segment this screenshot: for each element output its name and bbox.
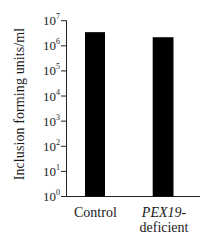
y-tick-label: 107 xyxy=(43,12,60,28)
x-category-label-control: Control xyxy=(74,205,116,220)
y-tick-label: 104 xyxy=(43,88,60,104)
y-tick-label: 106 xyxy=(43,37,60,53)
gene-name-italic: PEX19 xyxy=(142,205,182,220)
y-axis-label: Inclusion forming units/ml xyxy=(12,28,28,181)
category-label-line1: PEX19- xyxy=(136,205,192,220)
y-tick-label: 101 xyxy=(43,163,60,179)
y-tick-label: 102 xyxy=(43,138,60,154)
y-tick-label: 100 xyxy=(43,188,60,204)
hyphen: - xyxy=(181,205,186,220)
bar-pex19-deficient xyxy=(153,37,174,196)
y-ticks: 100101102103104105106107 xyxy=(43,12,67,204)
chart: 100101102103104105106107 xyxy=(0,0,204,240)
bars xyxy=(85,32,174,196)
x-category-label-pex19-deficient: PEX19- deficient xyxy=(136,205,192,235)
bar-control xyxy=(85,32,105,196)
y-tick-label: 103 xyxy=(43,113,60,129)
category-label-line2: deficient xyxy=(136,220,192,235)
y-tick-label: 105 xyxy=(43,62,60,78)
category-label-line1: Control xyxy=(74,205,116,220)
